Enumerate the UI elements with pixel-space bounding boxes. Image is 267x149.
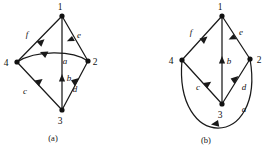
vertex-label-1: 1 [218,2,223,12]
edge-e-panel-a [62,16,88,61]
edge-b-arrowhead [219,56,225,64]
edge-b-arrowhead [59,74,65,82]
edge-e-line [222,16,250,59]
vertex-dot-3 [59,107,64,112]
edge-c-line [182,60,222,104]
edge-label-a: a [242,104,247,114]
edge-label-e: e [77,30,81,40]
vertex-label-4: 4 [4,58,9,68]
edge-label-b: b [67,73,72,83]
caption-panel-b: (b) [201,135,211,145]
edge-e-line [62,16,88,61]
edge-a-arrowhead [211,120,219,127]
panel-a: 1 4 2 3 f e b c d a (a) [4,2,98,143]
edge-label-d: d [73,84,78,94]
caption-panel-a: (a) [48,133,58,143]
edge-label-a: a [63,56,68,66]
edge-label-f: f [26,29,30,39]
edge-a-arrowhead [40,51,48,58]
vertex-label-2: 2 [257,55,262,65]
edge-label-d: d [242,82,247,92]
edge-e-panel-b [222,16,250,59]
edge-b-panel-b [219,16,225,104]
vertex-dot-4 [14,59,19,64]
edge-f-panel-a [17,16,62,62]
vertex-label-2: 2 [93,57,98,67]
edge-label-e: e [239,27,243,37]
vertex-dot-2 [247,56,252,61]
directed-graphs-figure: 1 4 2 3 f e b c d a (a) [0,0,267,149]
edge-label-f: f [190,27,194,37]
vertex-label-3: 3 [218,110,223,120]
vertex-label-3: 3 [58,116,63,126]
edge-label-b: b [227,56,232,66]
vertex-label-4: 4 [169,56,174,66]
edge-f-line [17,16,62,62]
edge-f-panel-b [182,16,222,60]
edge-a-panel-a [17,51,88,62]
panel-b: 1 4 2 3 f e b c d a (b) [169,2,262,145]
vertex-dot-1 [59,13,64,18]
figure-root: 1 4 2 3 f e b c d a (a) [0,0,267,149]
vertex-dot-4 [179,57,184,62]
vertex-dot-1 [219,13,224,18]
edge-a-path [17,53,88,62]
edge-c-panel-b [182,60,222,104]
vertex-dot-3 [219,101,224,106]
vertex-dot-2 [85,58,90,63]
edge-label-c: c [196,82,200,92]
vertex-label-1: 1 [58,2,63,12]
edge-label-c: c [23,86,27,96]
